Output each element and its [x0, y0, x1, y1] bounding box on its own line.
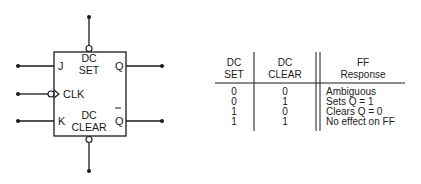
dc-set-label-line2: SET	[79, 64, 100, 76]
header-dc-set-line1: DC	[227, 57, 241, 68]
header-dc-clear-line1: DC	[278, 57, 292, 68]
q-output	[126, 64, 164, 68]
dc-set-input	[86, 15, 92, 52]
table-row: 1 1 No effect on FF	[231, 116, 395, 127]
header-ff-line2: Response	[340, 69, 385, 80]
inversion-bubble-icon	[86, 46, 92, 52]
dc-clear-label-line2: CLEAR	[71, 121, 106, 133]
qbar-label: Q	[115, 115, 124, 127]
header-ff-line1: FF	[357, 57, 369, 68]
q-label: Q	[115, 60, 124, 72]
clk-label: CLK	[63, 88, 85, 100]
clock-triangle-icon	[54, 90, 59, 98]
header-dc-set-line2: SET	[224, 69, 243, 80]
dc-set-label-line1: DC	[81, 52, 97, 64]
cell-response: No effect on FF	[326, 116, 395, 127]
clk-input	[16, 90, 59, 98]
k-label: K	[58, 115, 66, 127]
j-input	[16, 64, 54, 68]
cell-set: 1	[231, 116, 237, 127]
dc-clear-input	[86, 137, 92, 174]
dc-clear-label-line1: DC	[81, 109, 97, 121]
k-input	[16, 119, 54, 123]
j-label: J	[58, 60, 64, 72]
flip-flop-diagram: J K CLK Q Q DC SET DC CLEAR DC SET DC CL…	[0, 0, 421, 184]
header-dc-clear-line2: CLEAR	[268, 69, 301, 80]
cell-clear: 1	[282, 116, 288, 127]
inversion-bubble-icon	[48, 91, 54, 97]
inversion-bubble-icon	[86, 137, 92, 143]
